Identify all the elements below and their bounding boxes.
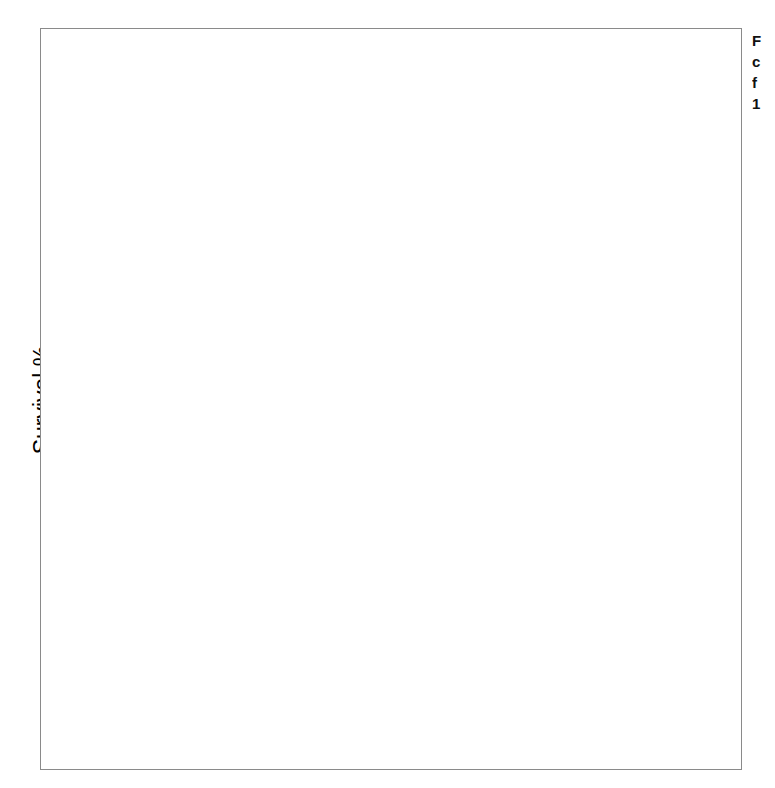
figure-caption-fragment: F c f 1: [752, 30, 775, 114]
figure-frame: [40, 28, 742, 770]
figure-container: F c f 1 Survival %020406080100Vertebral0…: [0, 0, 775, 788]
